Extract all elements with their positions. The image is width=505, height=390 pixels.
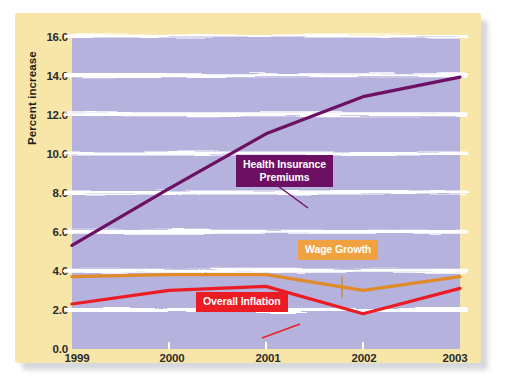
series-label-health-insurance-premiums: Health Insurance Premiums [236,155,333,187]
callout-leader-lines [262,186,342,338]
x-tick-label: 2003 [443,352,468,364]
x-axis-ticks [169,342,363,349]
x-tick-label: 2002 [352,352,377,364]
x-tick-label: 2001 [256,352,281,364]
x-axis-tick-labels: 1999 2000 2001 2002 2003 [0,352,505,372]
series-label-wage-growth: Wage Growth [298,240,378,260]
series-label-overall-inflation: Overall Inflation [196,292,288,312]
y-tick-label: 16.0 [46,31,68,43]
y-axis-tick-labels: 16.0 14.0 12.0 10.0 8.0 6.0 4.0 2.0 0.0 [20,0,68,390]
x-tick-label: 2000 [160,352,185,364]
chart-figure: Percent increase 16.0 14.0 12.0 10.0 8.0… [0,0,505,390]
x-tick-label: 1999 [65,352,90,364]
